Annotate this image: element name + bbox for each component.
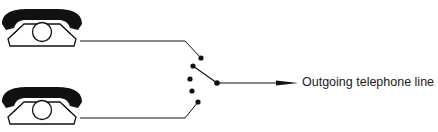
- outgoing-line-label: Outgoing telephone line: [302, 75, 434, 89]
- arrow-head-icon: [276, 81, 298, 86]
- switch-arm: [193, 66, 217, 83]
- switch-contacts: [187, 55, 203, 104]
- wire-top: [80, 41, 201, 58]
- telephone-icon-bottom: [2, 87, 82, 124]
- wire-bottom: [80, 102, 198, 118]
- telephone-icon-top: [2, 9, 82, 46]
- diagram-canvas: [0, 0, 438, 132]
